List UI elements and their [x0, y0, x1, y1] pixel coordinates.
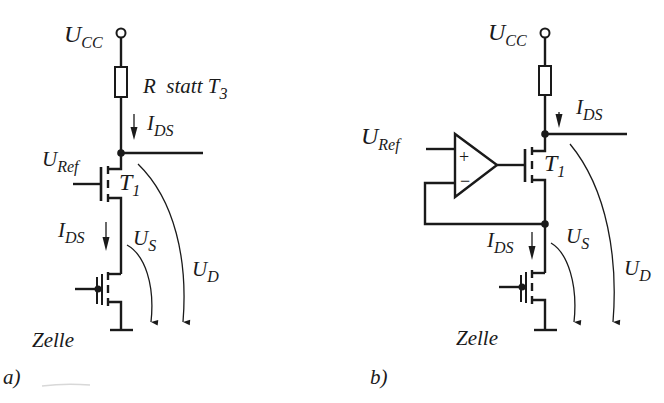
supply-terminal-icon — [541, 29, 550, 38]
svg-text:US: US — [133, 226, 156, 254]
supply-terminal-icon — [117, 29, 126, 38]
circuit-figure: UCC R statt T3 IDS URef T1 IDS US UD Zel… — [0, 0, 664, 403]
cell-transistor-icon — [499, 270, 557, 330]
voltage-arrow-us — [551, 243, 575, 322]
svg-text:URef: URef — [42, 147, 81, 176]
supply-label-a: U — [64, 21, 83, 47]
opamp-icon: + − — [425, 134, 545, 224]
svg-text:UD: UD — [192, 257, 219, 285]
caption-a: a) — [3, 365, 21, 389]
svg-text:T1: T1 — [119, 169, 140, 199]
resistor-icon — [115, 67, 127, 97]
resistor-icon — [539, 66, 551, 95]
svg-text:−: − — [460, 171, 470, 191]
svg-text:+: + — [459, 147, 469, 167]
resistor-label-a: R statt T — [142, 74, 221, 98]
cell-label-a: Zelle — [32, 328, 74, 352]
svg-text:T1: T1 — [544, 150, 565, 180]
diagram-b: + − — [425, 29, 627, 331]
svg-text:URef: URef — [361, 123, 402, 154]
svg-text:IDS: IDS — [575, 95, 603, 123]
cell-transistor-icon — [75, 272, 133, 330]
svg-text:IDS: IDS — [57, 218, 85, 246]
svg-text:IDS: IDS — [146, 111, 174, 139]
voltage-arrow-us — [127, 245, 152, 322]
reference-label-b: U — [361, 123, 380, 149]
transistor-t1-icon — [525, 134, 545, 224]
svg-text:UD: UD — [624, 256, 651, 284]
supply-label-b: U — [488, 19, 507, 45]
transistor-t1-icon — [73, 153, 121, 274]
svg-text:R statt T3: R statt T3 — [142, 74, 227, 102]
caption-b: b) — [370, 365, 388, 389]
svg-text:UCC: UCC — [488, 19, 527, 49]
svg-text:IDS: IDS — [486, 228, 514, 256]
cell-label-b: Zelle — [456, 326, 498, 350]
svg-text:UCC: UCC — [64, 21, 103, 51]
svg-text:US: US — [566, 224, 589, 252]
